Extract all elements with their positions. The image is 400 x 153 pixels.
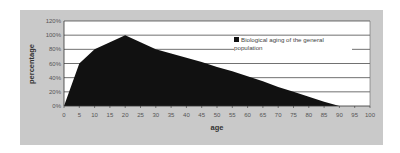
x-tick-label: 55	[229, 112, 236, 118]
x-tick-label: 100	[365, 112, 376, 118]
x-tick-label: 35	[168, 112, 175, 118]
y-tick-labels: 0%20%40%60%80%100%120%	[46, 18, 62, 109]
y-tick-label: 100%	[46, 32, 62, 38]
x-tick-label: 80	[305, 112, 312, 118]
x-tick-label: 70	[275, 112, 282, 118]
legend: Biological aging of the general populati…	[234, 36, 352, 58]
x-tick-label: 20	[122, 112, 129, 118]
y-tick-label: 40%	[49, 75, 62, 81]
y-axis-title: percentage	[27, 44, 36, 84]
x-tick-label: 65	[260, 112, 267, 118]
x-tick-label: 5	[78, 112, 82, 118]
x-tick-label: 15	[107, 112, 114, 118]
x-tick-label: 10	[91, 112, 98, 118]
x-tick-label: 85	[321, 112, 328, 118]
x-tick-label: 0	[62, 112, 66, 118]
legend-swatch-icon	[234, 37, 239, 42]
x-axis-title: age	[211, 123, 224, 132]
legend-label: Biological aging of the general populati…	[234, 36, 324, 51]
x-tick-label: 95	[351, 112, 358, 118]
y-tick-label: 60%	[49, 61, 62, 67]
area-chart: 0%20%40%60%80%100%120% 05101520253035404…	[0, 0, 400, 153]
x-tick-label: 45	[198, 112, 205, 118]
y-tick-label: 120%	[46, 18, 62, 24]
x-tick-label: 25	[137, 112, 144, 118]
y-tick-label: 0%	[52, 103, 61, 109]
x-tick-label: 60	[244, 112, 251, 118]
x-tick-label: 30	[152, 112, 159, 118]
y-tick-label: 20%	[49, 89, 62, 95]
x-tick-label: 75	[290, 112, 297, 118]
x-tick-label: 50	[214, 112, 221, 118]
x-tick-label: 40	[183, 112, 190, 118]
x-tick-label: 90	[336, 112, 343, 118]
x-tick-labels: 0510152025303540455055606570758085909510…	[62, 106, 375, 118]
y-tick-label: 80%	[49, 46, 62, 52]
